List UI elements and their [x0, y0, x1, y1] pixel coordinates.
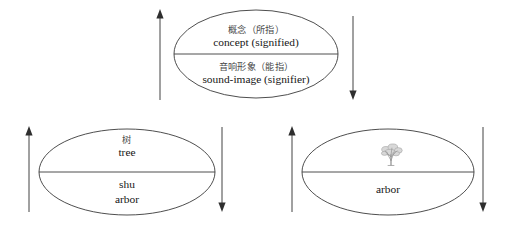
general-sign-ellipse-group — [174, 10, 338, 98]
arrow-head-up-icon — [156, 9, 163, 19]
arrow-head-down-icon — [349, 91, 356, 101]
arrow-head-up-icon — [288, 126, 295, 136]
tree-chinese-left-up-arrow — [25, 126, 32, 212]
arrow-head-up-icon — [25, 126, 32, 136]
general-right-down-arrow — [349, 16, 356, 100]
arrow-head-down-icon — [218, 203, 225, 213]
saussure-sign-diagram: 概念（所指） concept (signified) 音响形象（能指） soun… — [0, 0, 512, 228]
arrow-head-down-icon — [479, 203, 486, 213]
tree-chinese-ellipse-group — [39, 129, 215, 215]
general-left-up-arrow — [156, 9, 163, 100]
tree-latin-left-up-arrow — [288, 126, 295, 212]
diagram-canvas — [0, 0, 512, 228]
tree-chinese-right-down-arrow — [218, 127, 225, 212]
tree-latin-right-down-arrow — [479, 127, 486, 212]
tree-latin-ellipse-group — [302, 129, 474, 215]
